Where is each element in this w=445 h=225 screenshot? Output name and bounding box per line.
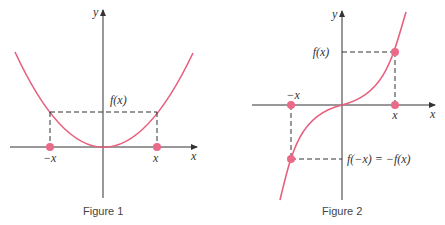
neg-x-point [46,143,54,151]
pos-x-point [153,143,161,151]
y-axis-label: y [92,5,99,19]
neg-fx-label: f(−x) = −f(x) [347,152,411,166]
x-axis-label: x [429,107,436,121]
odd-function-curve [280,12,406,200]
fx-label: f(x) [110,93,127,107]
neg-x-label: −x [43,151,57,165]
pos-x-label: x [152,151,159,165]
neg-x-point [287,101,295,109]
x-axis-label: x [190,149,197,163]
figures-canvas: y x f(x) −x x Figure 1 y x f(x) −x x f(−… [0,0,445,225]
figure-1: y x f(x) −x x Figure 1 [10,5,197,217]
figure-2: y x f(x) −x x f(−x) = −f(x) Figure 2 [252,7,436,217]
pos-fx-point [391,48,399,56]
y-axis-label: y [331,7,338,21]
figure-2-caption: Figure 2 [322,205,362,217]
fx-label: f(x) [313,45,330,59]
figure-1-caption: Figure 1 [83,205,123,217]
neg-fx-point [287,155,295,163]
pos-x-label: x [391,108,398,122]
even-function-curve [15,52,193,147]
neg-x-label: −x [286,88,300,102]
